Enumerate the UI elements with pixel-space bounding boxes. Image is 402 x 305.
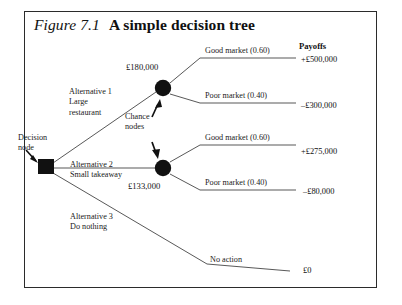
payoff-value-1: +£500,000 <box>301 55 337 64</box>
payoff-value-4: –£80,000 <box>303 187 334 196</box>
decision-node-label: Decision node <box>18 133 47 154</box>
branch-label-n1-poor: Poor market (0.40) <box>205 91 267 101</box>
branch-label-no-action: No action <box>210 255 242 265</box>
payoffs-header: Payoffs <box>299 41 326 51</box>
chance-node-down-arrow <box>152 142 160 159</box>
chance-node-up-arrow <box>152 99 162 117</box>
alternative-3-label: Alternative 3 Do nothing <box>70 212 113 233</box>
edge-n1-good-diag <box>170 58 200 83</box>
branch-label-n2-poor: Poor market (0.40) <box>205 178 267 188</box>
branch-label-n2-good: Good market (0.60) <box>205 133 270 143</box>
edge-n1-poor-diag <box>170 94 200 103</box>
payoff-value-3: +£275,000 <box>301 147 337 156</box>
figure-container: Figure 7.1A simple decision tree <box>0 0 402 305</box>
branch-label-n1-good: Good market (0.60) <box>205 46 270 56</box>
edge-n2-poor-diag <box>170 174 200 190</box>
chance-node-1-value: £180,000 <box>126 62 158 72</box>
chance-node-1-circle <box>155 80 171 96</box>
chance-node-2-value: £133,000 <box>128 181 160 191</box>
payoff-value-5: £0 <box>303 266 311 275</box>
edge-n2-good-diag <box>170 145 200 162</box>
alternative-1-label: Alternative 1 Large restaurant <box>69 87 112 118</box>
chance-nodes-label: Chance nodes <box>125 112 150 133</box>
alternative-2-label: Alternative 2 Small takeaway <box>70 160 122 181</box>
decision-tree-graphic <box>0 0 402 305</box>
payoff-value-2: –£300,000 <box>301 101 337 110</box>
chance-node-2-circle <box>155 160 171 176</box>
decision-node-square <box>38 159 54 174</box>
